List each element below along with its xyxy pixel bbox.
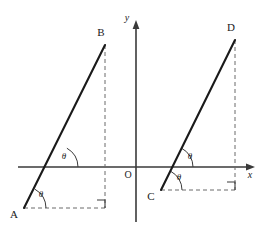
theta-label-A: θ	[39, 189, 44, 199]
point-label-C: C	[147, 190, 154, 202]
theta-label-C: θ	[177, 172, 182, 182]
point-label-A: A	[10, 208, 18, 220]
segments-group	[24, 40, 235, 208]
right-angle-mark-D	[227, 182, 235, 190]
theta-label-AB-axis: θ	[62, 151, 67, 161]
theta-labels-group: θ θ θ θ	[39, 151, 193, 199]
point-label-D: D	[227, 21, 235, 33]
right-angle-mark-B	[97, 200, 105, 208]
geometry-figure: y x O	[0, 0, 269, 236]
segment-AB	[24, 45, 105, 208]
point-labels-group: A B C D	[10, 21, 235, 220]
right-angle-markers-group	[97, 182, 235, 208]
point-label-B: B	[97, 26, 104, 38]
angle-arc-theta-AB-axis	[67, 148, 78, 167]
x-axis-label: x	[247, 169, 253, 180]
theta-label-CD-axis: θ	[188, 151, 193, 161]
y-axis-arrowhead	[133, 20, 140, 29]
y-axis-label: y	[124, 12, 130, 23]
angle-arcs-group	[35, 148, 193, 208]
dashed-lines-group	[24, 40, 235, 208]
origin-label: O	[124, 169, 131, 180]
diagram-canvas: y x O	[0, 0, 269, 236]
